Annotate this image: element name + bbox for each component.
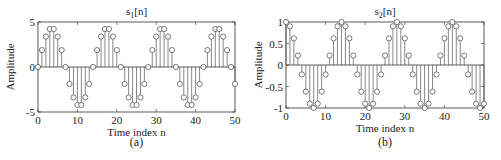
stem-marker xyxy=(173,64,178,69)
stem-marker xyxy=(434,72,439,77)
stem-marker xyxy=(35,64,40,69)
stem-marker xyxy=(390,24,395,29)
stem-marker xyxy=(181,95,186,100)
stem-marker xyxy=(193,95,198,100)
stem-marker xyxy=(118,64,123,69)
stem-marker xyxy=(323,72,328,77)
stem-marker xyxy=(295,53,300,58)
stem-marker xyxy=(51,26,56,31)
y-tick-label: 0.5 xyxy=(269,38,283,50)
stem-marker xyxy=(197,81,202,86)
figure-caption: (a) xyxy=(130,135,143,149)
stem-marker xyxy=(126,95,131,100)
stem-marker xyxy=(481,101,486,106)
stem-marker xyxy=(466,72,471,77)
stem-marker xyxy=(122,81,127,86)
stem-marker xyxy=(394,19,399,24)
x-tick-label: 0 xyxy=(283,110,289,122)
stem-marker xyxy=(473,101,478,106)
stem-marker xyxy=(438,53,443,58)
y-tick-label: 1 xyxy=(278,16,284,28)
stem-marker xyxy=(232,81,237,86)
stem-marker xyxy=(95,47,100,52)
y-axis-label: Amplitude xyxy=(252,41,264,88)
stem-marker xyxy=(335,24,340,29)
stem-marker xyxy=(311,105,316,110)
stem-marker xyxy=(177,81,182,86)
stem-marker xyxy=(422,105,427,110)
y-tick-label: -5 xyxy=(26,106,36,118)
stem-marker xyxy=(63,64,68,69)
stem-marker xyxy=(138,95,143,100)
stem-marker xyxy=(87,81,92,86)
stem-marker xyxy=(410,72,415,77)
chart-title: s2[n] xyxy=(374,5,395,20)
stem-marker xyxy=(307,101,312,106)
stem-marker xyxy=(470,89,475,94)
y-tick-label: 0 xyxy=(30,61,36,73)
stem-marker xyxy=(319,89,324,94)
stem-marker xyxy=(414,89,419,94)
stem-marker xyxy=(402,36,407,41)
x-tick-label: 30 xyxy=(399,110,411,122)
figure: 01020304050-505s1[n]Time index nAmplitud… xyxy=(0,0,501,160)
x-tick-label: 0 xyxy=(35,114,41,126)
stem-marker xyxy=(374,89,379,94)
stem-marker xyxy=(205,47,210,52)
stem-marker xyxy=(98,34,103,39)
x-tick-label: 10 xyxy=(320,110,332,122)
chart-s2: 01020304050-1-0.500.51s2[n]Time index nA… xyxy=(252,5,490,149)
figure-caption: (b) xyxy=(378,135,392,149)
stem-series xyxy=(283,19,486,110)
stem-marker xyxy=(39,47,44,52)
stem-marker xyxy=(299,72,304,77)
stem-marker xyxy=(221,34,226,39)
stem-marker xyxy=(169,47,174,52)
stem-marker xyxy=(91,64,96,69)
stem-marker xyxy=(458,36,463,41)
y-tick-label: 5 xyxy=(30,16,36,28)
stem-marker xyxy=(398,24,403,29)
stem-marker xyxy=(114,47,119,52)
stem-marker xyxy=(359,89,364,94)
stem-marker xyxy=(327,53,332,58)
stem-marker xyxy=(165,34,170,39)
y-tick-label: -0.5 xyxy=(266,81,284,93)
stem-marker xyxy=(418,101,423,106)
y-tick-label: -1 xyxy=(274,102,283,114)
stem-marker xyxy=(351,53,356,58)
stem-marker xyxy=(43,34,48,39)
stem-marker xyxy=(450,19,455,24)
x-tick-label: 40 xyxy=(439,110,451,122)
stem-marker xyxy=(146,64,151,69)
stem-marker xyxy=(209,34,214,39)
stem-marker xyxy=(287,24,292,29)
stem-marker xyxy=(426,101,431,106)
stem-marker xyxy=(201,64,206,69)
stem-marker xyxy=(142,81,147,86)
x-tick-label: 30 xyxy=(151,114,163,126)
stem-marker xyxy=(303,89,308,94)
stem-series xyxy=(35,26,237,107)
stem-marker xyxy=(217,26,222,31)
stem-marker xyxy=(83,95,88,100)
x-tick-label: 50 xyxy=(230,114,242,126)
chart-title: s1[n] xyxy=(126,5,147,20)
stem-marker xyxy=(371,101,376,106)
y-axis-label: Amplitude xyxy=(4,43,16,90)
x-tick-label: 10 xyxy=(72,114,84,126)
stem-marker xyxy=(150,47,155,52)
stem-marker xyxy=(79,102,84,107)
stem-marker xyxy=(343,24,348,29)
title-suffix: [n] xyxy=(134,5,147,17)
stem-marker xyxy=(386,36,391,41)
stem-marker xyxy=(363,101,368,106)
stem-marker xyxy=(430,89,435,94)
stem-marker xyxy=(291,36,296,41)
stem-marker xyxy=(106,26,111,31)
stem-marker xyxy=(355,72,360,77)
stem-marker xyxy=(189,102,194,107)
stem-marker xyxy=(446,24,451,29)
stem-marker xyxy=(110,34,115,39)
stem-marker xyxy=(154,34,159,39)
